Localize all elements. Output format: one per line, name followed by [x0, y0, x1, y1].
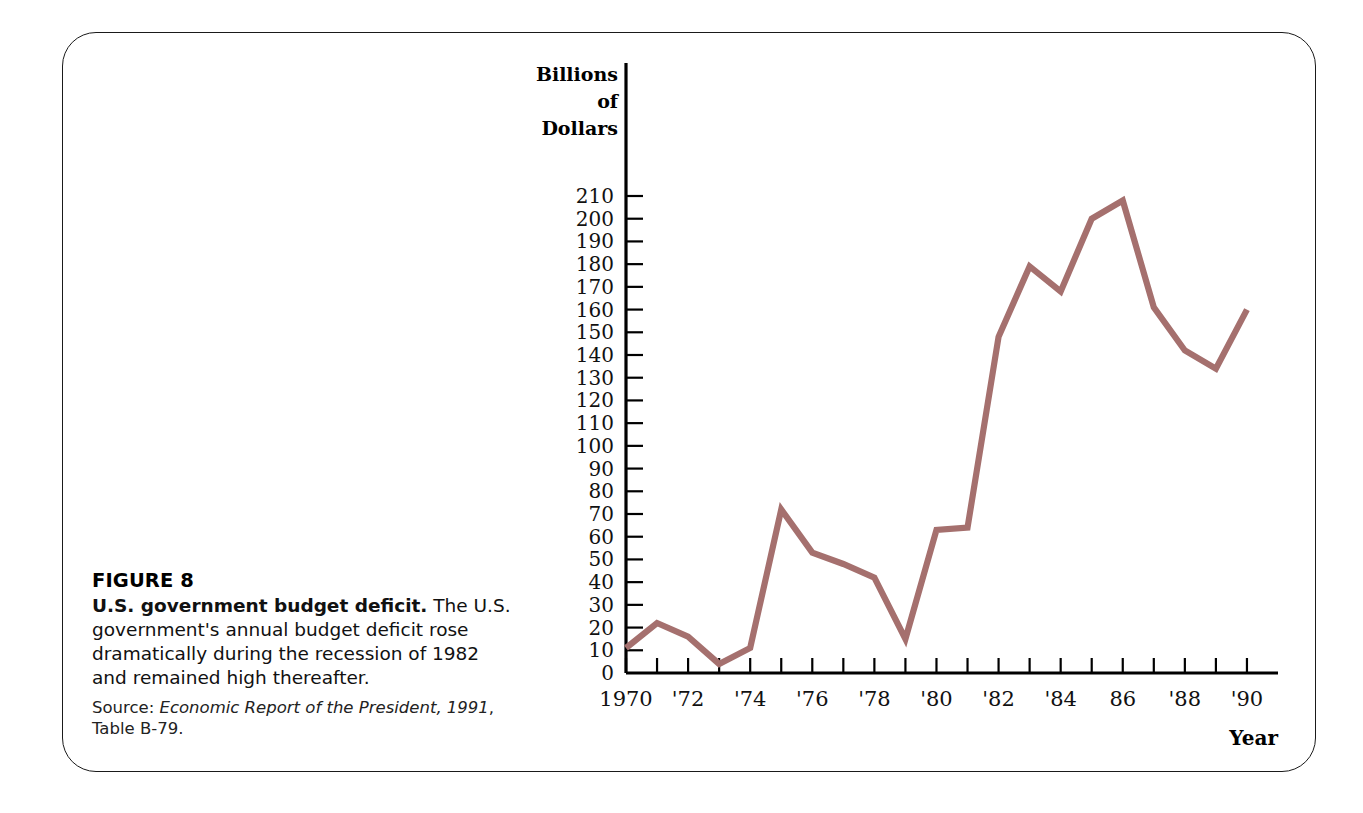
y-tick-label-70: 70	[589, 502, 614, 526]
y-tick-label-100: 100	[576, 434, 614, 458]
x-tick-label-1978: '78	[858, 687, 891, 711]
y-tick-label-190: 190	[576, 229, 614, 253]
y-tick-label-140: 140	[576, 343, 614, 367]
x-tick-label-1970: 1970	[599, 687, 652, 711]
source-prefix: Source:	[92, 698, 159, 717]
data-series-line-0	[626, 201, 1247, 664]
y-tick-label-170: 170	[576, 275, 614, 299]
x-tick-label-1982: '82	[982, 687, 1015, 711]
chart-series-group	[626, 201, 1247, 664]
y-tick-label-210: 210	[576, 184, 614, 208]
x-tick-label-1974: '74	[734, 687, 767, 711]
y-tick-label-110: 110	[576, 411, 614, 435]
y-tick-label-0: 0	[601, 661, 614, 685]
y-axis-title-line-2: of	[597, 90, 620, 112]
figure-title-lead: U.S. government budget deficit.	[92, 595, 427, 616]
x-axis-label: Year	[1228, 726, 1278, 745]
figure-source: Source: Economic Report of the President…	[92, 697, 512, 739]
y-tick-label-60: 60	[589, 525, 614, 549]
y-axis-tick-labels: 0102030405060708090100110120130140150160…	[576, 184, 614, 685]
y-axis-ticks	[626, 196, 643, 650]
figure-number-label: FIGURE 8	[92, 570, 512, 592]
figure-root: FIGURE 8 U.S. government budget deficit.…	[0, 0, 1363, 813]
x-tick-label-1976: '76	[796, 687, 829, 711]
y-tick-label-180: 180	[576, 252, 614, 276]
y-tick-label-150: 150	[576, 320, 614, 344]
y-tick-label-10: 10	[589, 638, 614, 662]
y-tick-label-20: 20	[589, 616, 614, 640]
chart-container: Billions of Dollars 01020304050607080901…	[530, 45, 1310, 745]
x-tick-label-1990: '90	[1231, 687, 1264, 711]
x-tick-label-1972: '72	[672, 687, 705, 711]
budget-deficit-line-chart: Billions of Dollars 01020304050607080901…	[530, 45, 1310, 745]
figure-caption: FIGURE 8 U.S. government budget deficit.…	[92, 570, 512, 739]
y-axis-title: Billions of Dollars	[536, 63, 620, 139]
x-axis-tick-labels: 1970'72'74'76'78'80'82'8486'88'90	[599, 687, 1263, 711]
x-tick-label-1984: '84	[1044, 687, 1077, 711]
y-tick-label-30: 30	[589, 593, 614, 617]
y-tick-label-130: 130	[576, 366, 614, 390]
y-tick-label-160: 160	[576, 298, 614, 322]
figure-caption-body: U.S. government budget deficit. The U.S.…	[92, 594, 512, 690]
x-tick-label-1986: 86	[1109, 687, 1136, 711]
x-tick-label-1988: '88	[1169, 687, 1202, 711]
y-tick-label-50: 50	[589, 547, 614, 571]
y-axis-title-line-3: Dollars	[541, 117, 618, 139]
y-axis-title-line-1: Billions	[536, 63, 618, 85]
y-tick-label-120: 120	[576, 388, 614, 412]
y-tick-label-40: 40	[589, 570, 614, 594]
y-tick-label-200: 200	[576, 207, 614, 231]
source-title: Economic Report of the President, 1991	[159, 698, 488, 717]
x-tick-label-1980: '80	[920, 687, 953, 711]
y-tick-label-90: 90	[589, 457, 614, 481]
y-tick-label-80: 80	[589, 479, 614, 503]
